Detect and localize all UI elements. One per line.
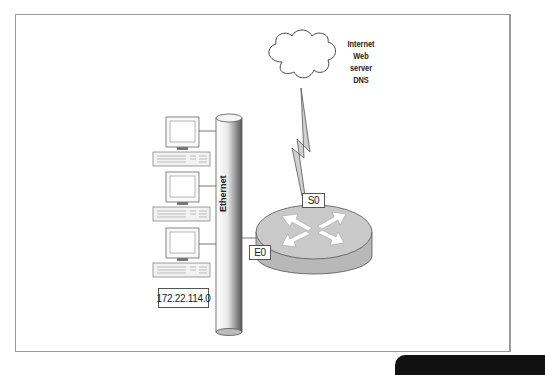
- cloud-label: Internet Web server DNS: [342, 38, 380, 86]
- interface-label-s0: S0: [302, 193, 325, 208]
- workstation-icon: [153, 172, 210, 221]
- cloud-label-line-internet: Internet: [342, 38, 380, 50]
- interface-label-e0: E0: [249, 245, 271, 260]
- workstation-icon: [153, 228, 210, 277]
- cloud-label-line-dns: DNS: [342, 74, 380, 86]
- serial-link-lightning-icon: [292, 88, 310, 196]
- cloud-label-line-web-server: Web server: [342, 50, 380, 74]
- internet-cloud-icon: [269, 30, 336, 78]
- workstation-icon: [153, 117, 210, 166]
- footer-tab: [395, 355, 545, 375]
- router-icon: [256, 205, 372, 274]
- network-address-label: 172.22.114.0: [158, 288, 209, 308]
- ethernet-bus-icon: [216, 114, 242, 336]
- ethernet-label: Ethernet: [218, 175, 228, 212]
